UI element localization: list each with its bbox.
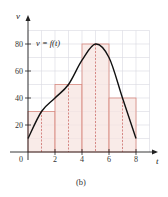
function-label: v = f(t) <box>36 38 60 48</box>
x-tick-label: 2 <box>53 155 57 164</box>
y-tick-label: 20 <box>15 121 23 130</box>
x-tick-label: 8 <box>134 155 138 164</box>
rectangle <box>28 112 55 153</box>
x-tick-label: 6 <box>107 155 111 164</box>
y-axis-label: v <box>16 11 20 21</box>
y-tick-label: 80 <box>15 40 23 49</box>
x-tick-label: 4 <box>80 155 84 164</box>
x-axis-label: t <box>156 156 159 166</box>
y-tick-label: 40 <box>15 94 23 103</box>
y-axis-arrow-icon <box>26 15 31 21</box>
figure-caption: (b) <box>76 177 86 187</box>
x-tick-label: 0 <box>19 155 23 164</box>
x-axis-arrow-icon <box>152 150 158 155</box>
riemann-sum-chart: 2040608002468 v t v = f(t) (b) <box>0 0 168 197</box>
y-tick-label: 60 <box>15 67 23 76</box>
